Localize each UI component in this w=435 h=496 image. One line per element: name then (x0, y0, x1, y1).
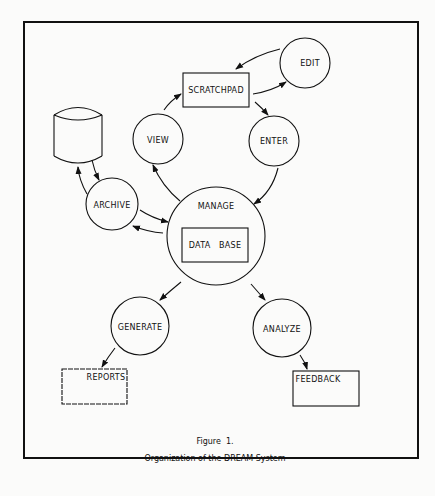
edge-generate-to-reports (102, 348, 115, 367)
edge-scratchpad-to-edit (253, 82, 286, 94)
edge-manage-to-generate (160, 282, 181, 300)
database-label: DATA BASE (189, 241, 242, 250)
edge-manage-to-view (153, 165, 180, 201)
edge-manage-to-analyze (251, 284, 265, 300)
figure-number: Figure 1. (196, 437, 233, 446)
edit-label: EDIT (300, 59, 320, 68)
edge-manage-to-archive (133, 226, 163, 233)
generate-label: GENERATE (118, 323, 163, 332)
edge-analyze-to-feedback (300, 355, 307, 369)
edge-scratchpad-to-enter (255, 102, 268, 115)
view-label: VIEW (147, 136, 169, 145)
analyze-label: ANALYZE (263, 325, 301, 334)
edge-archive-to-storage (78, 167, 87, 194)
enter-label: ENTER (260, 137, 288, 146)
archive-label: ARCHIVE (93, 201, 130, 210)
edge-view-to-scratchpad (164, 94, 181, 110)
reports-label: REPORTS (87, 373, 126, 382)
scratchpad-label: SCRATCHPAD (188, 86, 244, 95)
edge-enter-to-manage (254, 168, 278, 204)
manage-label: MANAGE (198, 202, 235, 211)
storage-cylinder-icon (54, 108, 102, 164)
edge-storage-to-archive (92, 160, 99, 180)
figure-caption: Organization of the DREAM System (144, 454, 285, 463)
feedback-label: FEEDBACK (296, 375, 341, 384)
edge-archive-to-manage (140, 210, 168, 222)
edge-edit-to-scratchpad (236, 49, 280, 69)
